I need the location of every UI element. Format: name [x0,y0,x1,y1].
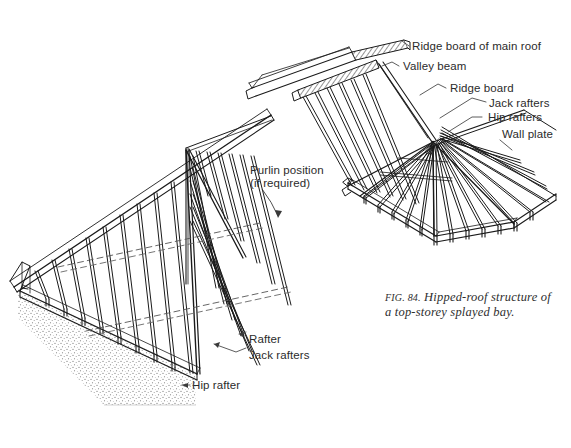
callout-valley-beam: Valley beam [403,60,467,73]
figure-page: Ridge board of main roof Valley beam Rid… [0,0,571,448]
callout-ridge-board-of-main-roof: Ridge board of main roof [412,40,541,53]
callout-purlin-position-line2: (if required) [250,177,310,190]
figure-number: FIG. 84. [385,292,421,303]
callout-hip-rafters: Hip rafters [488,111,542,124]
figure-caption: FIG. 84. Hipped-roof structure of a top-… [385,290,560,320]
callout-jack-rafters-right: Jack rafters [489,97,550,110]
callout-jack-rafters-left: Jack rafters [249,349,310,362]
splayed-bay-structure [246,40,556,245]
callout-wall-plate: Wall plate [502,128,553,141]
callout-purlin-position-line1: Purlin position [250,164,324,177]
callout-rafter: Rafter [249,333,281,346]
hipped-roof-diagram [0,0,571,448]
callout-hip-rafter: Hip rafter [192,379,240,392]
callout-ridge-board: Ridge board [450,82,514,95]
